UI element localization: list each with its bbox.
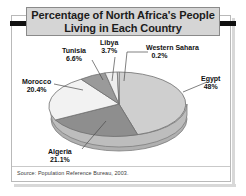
pie-label-egypt: Egypt 48% [201, 75, 220, 91]
pie-label-western-sahara: Western Sahara 0.2% [146, 44, 199, 60]
pie-label-algeria-value: 21.1% [48, 156, 72, 164]
source-divider [12, 166, 230, 167]
pie-label-egypt-value: 48% [201, 83, 220, 91]
pie-label-egypt-name: Egypt [201, 75, 220, 82]
pie-label-algeria-name: Algeria [48, 148, 72, 155]
pie-label-morocco-value: 20.4% [22, 86, 51, 94]
pie-label-tunisia: Tunisia 6.6% [62, 47, 86, 63]
chart-title-line-2: Living in Each Country [64, 22, 182, 34]
pie-label-morocco: Morocco 20.4% [22, 78, 51, 94]
figure-shadow-bottom [14, 184, 236, 187]
pie-label-tunisia-value: 6.6% [62, 55, 86, 63]
figure-shadow-right [232, 18, 235, 186]
pie-label-libya: Libya 3.7% [100, 39, 118, 55]
pie-label-western-sahara-value: 0.2% [146, 52, 199, 60]
pie-label-libya-value: 3.7% [100, 47, 118, 55]
pie-top-face [49, 72, 186, 136]
pie-chart-figure: Percentage of North Africa's People Livi… [0, 0, 246, 196]
source-note: Source: Population Reference Bureau, 200… [17, 170, 129, 176]
pie-label-libya-name: Libya [100, 39, 118, 46]
chart-title: Percentage of North Africa's People Livi… [26, 7, 220, 36]
pie-label-morocco-name: Morocco [22, 78, 51, 85]
pie-label-algeria: Algeria 21.1% [48, 148, 72, 164]
pie-label-western-sahara-name: Western Sahara [146, 44, 199, 51]
chart-title-line-1: Percentage of North Africa's People [31, 9, 214, 21]
pie-label-tunisia-name: Tunisia [62, 47, 86, 54]
